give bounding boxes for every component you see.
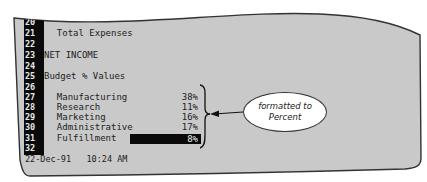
annotation-brace-arrow	[0, 0, 427, 182]
callout-line-2: Percent	[244, 112, 326, 123]
callout-line-1: formatted to	[244, 101, 326, 112]
callout-bubble: formatted to Percent	[243, 92, 327, 132]
